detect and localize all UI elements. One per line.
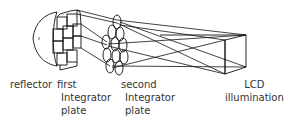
lcd-illumination-label: LCD illumination bbox=[225, 78, 284, 104]
first-plate-line2: Integrator bbox=[57, 91, 111, 104]
lcd-label-line2: illumination bbox=[225, 91, 284, 104]
first-integrator-plate-label: first Integrator plate bbox=[57, 78, 111, 117]
second-plate-line1: second bbox=[121, 78, 175, 91]
second-integrator-plate-label: second Integrator plate bbox=[121, 78, 175, 117]
first-plate-line3: plate bbox=[57, 104, 111, 117]
reflector-label-line1: reflector bbox=[10, 78, 52, 91]
reflector-label: reflector bbox=[10, 78, 52, 91]
second-plate-line2: Integrator bbox=[121, 91, 175, 104]
lcd-label-line1: LCD bbox=[225, 78, 284, 91]
first-plate-line1: first bbox=[57, 78, 111, 91]
second-plate-line3: plate bbox=[121, 104, 175, 117]
first-integrator-plate-icon bbox=[53, 10, 81, 70]
